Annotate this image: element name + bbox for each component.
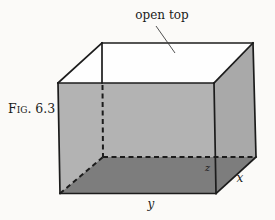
textbook-figure: open top Fig. 6.3 y x z: [0, 0, 275, 220]
open-top-label: open top: [135, 8, 189, 22]
axis-label-y: y: [147, 197, 155, 211]
axis-label-x: x: [237, 171, 244, 185]
box-diagram-canvas: open top Fig. 6.3 y x z: [0, 0, 275, 220]
hidden-edge-back-left-vertical: [103, 85, 104, 157]
figure-caption: Fig. 6.3: [8, 101, 55, 116]
axis-label-z: z: [204, 162, 211, 173]
